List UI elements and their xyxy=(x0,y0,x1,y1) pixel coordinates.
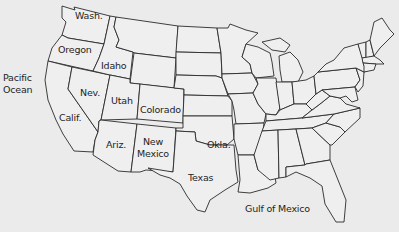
state-north-dakota xyxy=(176,26,221,53)
state-south-dakota xyxy=(176,52,222,78)
label-washington: Wash. xyxy=(75,11,103,21)
label-oklahoma: Okla. xyxy=(207,140,230,150)
state-wyoming xyxy=(130,53,176,88)
label-pacific-line1: Pacific xyxy=(3,73,32,83)
label-arizona: Ariz. xyxy=(106,140,126,150)
label-new-mexico-line2: Mexico xyxy=(135,149,171,159)
label-california: Calif. xyxy=(59,113,81,123)
label-texas: Texas xyxy=(188,173,213,183)
label-nevada: Nev. xyxy=(80,88,100,98)
label-utah: Utah xyxy=(111,96,133,106)
label-idaho: Idaho xyxy=(101,61,127,71)
state-iowa xyxy=(222,73,258,94)
label-pacific-line2: Ocean xyxy=(3,85,32,95)
label-oregon: Oregon xyxy=(58,45,92,55)
state-maine xyxy=(370,18,394,56)
label-colorado: Colorado xyxy=(140,105,181,115)
label-gulf-of-mexico: Gulf of Mexico xyxy=(245,204,310,214)
state-kansas xyxy=(183,95,232,116)
label-new-mexico-line1: New xyxy=(138,137,168,147)
state-connecticut xyxy=(363,63,376,72)
